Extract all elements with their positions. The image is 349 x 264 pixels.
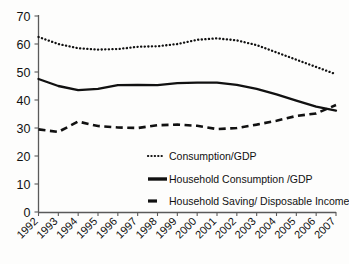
x-tick-label: 1998 xyxy=(133,215,159,241)
y-tick-label: 50 xyxy=(17,66,31,80)
y-tick-label: 20 xyxy=(17,150,31,164)
y-tick-label: 70 xyxy=(17,10,31,24)
x-tick-label: 1993 xyxy=(34,215,60,241)
x-tick-label: 2005 xyxy=(272,215,298,241)
legend-item-label: Household Saving/ Disposable Income xyxy=(169,195,349,207)
x-tick-label: 1997 xyxy=(113,215,139,241)
chart-container: 010203040506070 199219931994199519961997… xyxy=(0,0,349,264)
x-tick-label: 2007 xyxy=(312,215,338,241)
x-tick-labels: 1992199319941995199619971998199920002001… xyxy=(14,215,337,241)
x-tick-label: 2000 xyxy=(173,215,199,241)
line-chart: 010203040506070 199219931994199519961997… xyxy=(0,0,349,264)
x-tick-label: 2001 xyxy=(193,215,219,241)
x-tick-label: 2002 xyxy=(212,215,238,241)
x-tick-label: 1994 xyxy=(54,215,80,241)
x-tick-label: 2004 xyxy=(252,215,278,241)
series-group xyxy=(39,37,337,132)
y-axis: 010203040506070 xyxy=(17,10,39,220)
x-tick-label: 2003 xyxy=(232,215,258,241)
x-tick-label: 1995 xyxy=(74,215,100,241)
legend-item-label: Household Consumption /GDP xyxy=(169,173,313,185)
x-tick-label: 1996 xyxy=(93,215,119,241)
series-line-solid xyxy=(39,79,337,111)
y-tick-labels: 010203040506070 xyxy=(17,10,31,220)
series-line-dashed xyxy=(39,105,337,132)
x-tick-label: 2006 xyxy=(292,215,318,241)
y-tick-label: 30 xyxy=(17,122,31,136)
y-tick-label: 60 xyxy=(17,38,31,52)
legend-item-label: Consumption/GDP xyxy=(169,150,257,162)
chart-legend: Consumption/GDPHousehold Consumption /GD… xyxy=(148,150,349,207)
x-axis: 1992199319941995199619971998199920002001… xyxy=(14,212,337,241)
y-tick-label: 10 xyxy=(17,178,31,192)
y-tick-label: 40 xyxy=(17,94,31,108)
series-line-dotted xyxy=(39,37,337,74)
x-tick-label: 1992 xyxy=(14,215,40,241)
x-tick-label: 1999 xyxy=(153,215,179,241)
